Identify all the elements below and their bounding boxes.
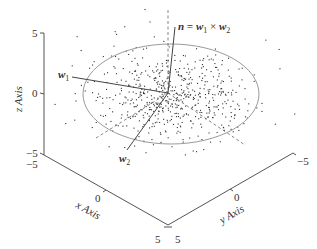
y-tick-end (293, 153, 296, 155)
plane-ellipse (83, 44, 259, 144)
x-tick-mid (103, 190, 106, 192)
3d-scatter-plot: 5 0 −5 −5 0 5 5 0 −5 z Axis x Axis y Axi… (0, 0, 317, 249)
y-axis-label: y Axis (216, 202, 246, 226)
diagonal-dashed-left (96, 93, 168, 138)
y-tick-mid (230, 189, 233, 191)
x-tick-label-start: −5 (26, 158, 38, 170)
x-tick-label-mid: 0 (95, 192, 101, 204)
y-tick-label-start: 5 (175, 233, 181, 245)
n-vector (168, 27, 175, 93)
z-tick-bot (40, 153, 44, 155)
vectors (72, 27, 175, 150)
w1-vector (72, 77, 168, 93)
y-tick-label-end: −5 (297, 155, 309, 167)
y-tick-label-mid: 0 (234, 191, 240, 203)
w2-label: w2 (119, 152, 130, 167)
w2-vector (127, 93, 168, 150)
z-tick-label-top: 5 (32, 27, 38, 39)
x-tick-label-end: 5 (155, 233, 161, 245)
z-tick-label-mid: 0 (32, 87, 38, 99)
w1-label: w1 (58, 68, 69, 83)
z-tick-mid (40, 93, 44, 94)
z-axis-label: z Axis (12, 86, 24, 113)
n-cross-product-label: n = w1 × w2 (178, 20, 230, 35)
